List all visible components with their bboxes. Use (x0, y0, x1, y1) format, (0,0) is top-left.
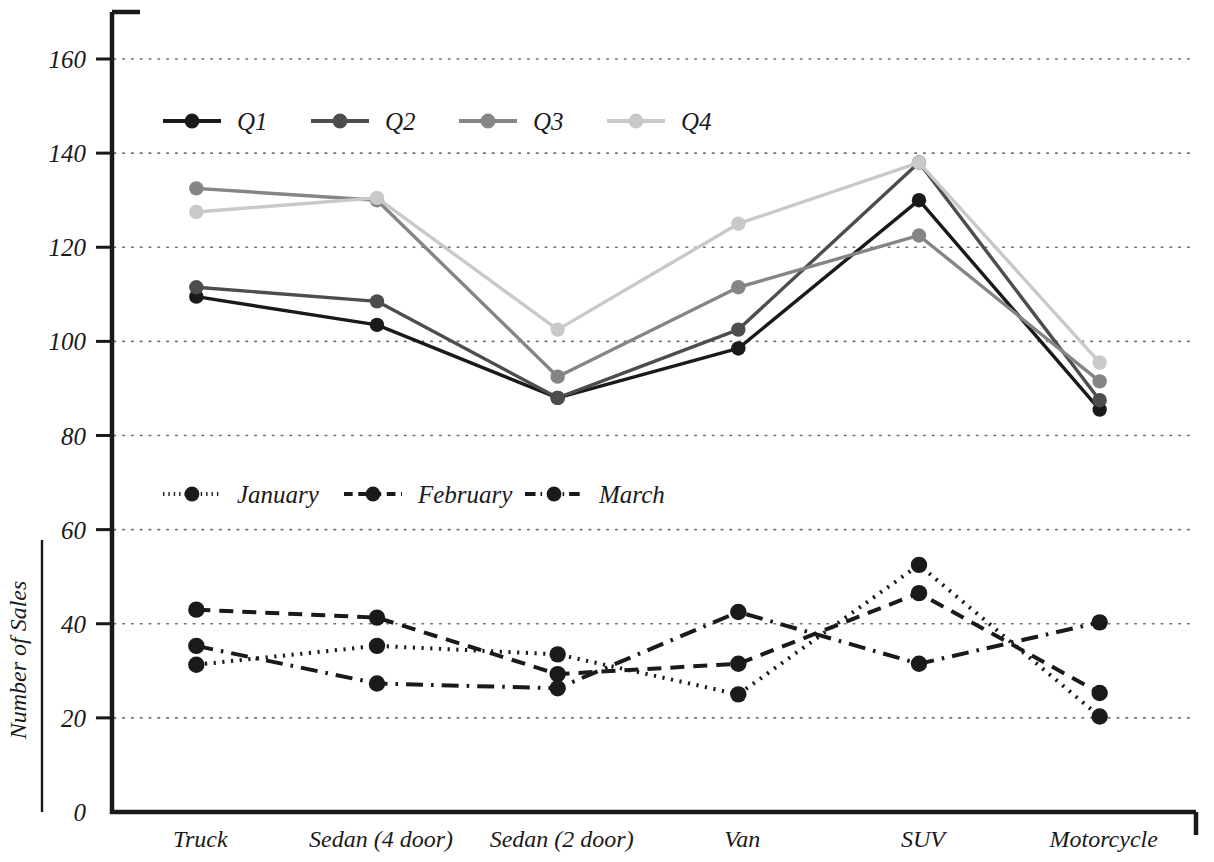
axis-lines (112, 12, 1196, 835)
y-tick-label-160: 160 (49, 46, 87, 73)
x-axis-label-3: Van (724, 826, 760, 852)
data-point-march-0 (188, 638, 204, 654)
data-point-january-4 (911, 557, 927, 573)
data-point-january-0 (188, 656, 204, 672)
y-tick-label-120: 120 (49, 234, 87, 261)
legend-item-february[interactable]: February (344, 481, 513, 508)
legend-swatch-marker-january (185, 487, 200, 502)
legend-item-q1[interactable]: Q1 (163, 108, 268, 135)
x-axis-label-1: Sedan (4 door) (309, 826, 453, 852)
legend-item-january[interactable]: January (163, 481, 320, 508)
data-point-q3-4 (912, 228, 926, 242)
gridlines (114, 59, 1196, 718)
legend-label-q4: Q4 (681, 108, 712, 135)
data-point-february-2 (549, 666, 565, 682)
y-tick-label-40: 40 (61, 611, 87, 638)
legend-swatch-marker-february (366, 487, 381, 502)
y-tick-label-100: 100 (49, 328, 87, 355)
legend-swatch-marker-q1 (185, 114, 200, 129)
data-point-february-5 (1091, 685, 1107, 701)
data-series-layer (188, 155, 1108, 724)
data-point-january-3 (730, 686, 746, 702)
data-point-march-5 (1091, 614, 1107, 630)
data-point-january-2 (549, 646, 565, 662)
series-line-january (196, 565, 1099, 717)
legend-item-q3[interactable]: Q3 (459, 108, 564, 135)
data-point-q1-3 (731, 341, 745, 355)
legend-label-february: February (417, 481, 513, 508)
y-tick-label-20: 20 (61, 705, 87, 732)
legend-quarters[interactable]: Q1Q2Q3Q4 (163, 108, 712, 135)
series-line-q3 (196, 188, 1099, 381)
data-point-q1-4 (912, 193, 926, 207)
data-point-q4-2 (550, 322, 564, 336)
data-point-q3-2 (550, 369, 564, 383)
data-point-q4-4 (912, 155, 926, 169)
data-point-q2-2 (550, 391, 564, 405)
y-tick-label-140: 140 (49, 140, 87, 167)
data-point-q3-3 (731, 280, 745, 294)
legend-swatch-marker-q2 (333, 114, 348, 129)
x-axis-label-2: Sedan (2 door) (490, 826, 634, 852)
data-point-q2-0 (189, 280, 203, 294)
legend-label-january: January (237, 481, 320, 508)
data-point-q4-3 (731, 217, 745, 231)
legend-item-march[interactable]: March (525, 481, 665, 508)
data-point-january-5 (1091, 708, 1107, 724)
data-point-february-4 (911, 585, 927, 601)
series-february (188, 585, 1108, 701)
data-point-march-1 (369, 675, 385, 691)
data-point-february-3 (730, 656, 746, 672)
series-q2 (189, 155, 1107, 407)
line-chart: 020406080100120140160 TruckSedan (4 door… (0, 0, 1214, 862)
series-line-q1 (196, 200, 1099, 409)
data-point-q2-5 (1092, 393, 1106, 407)
legend-item-q2[interactable]: Q2 (311, 108, 416, 135)
y-tick-label-0: 0 (74, 799, 87, 826)
series-q3 (189, 181, 1107, 388)
x-axis-label-0: Truck (173, 826, 228, 852)
data-point-q4-1 (370, 191, 384, 205)
data-point-q2-1 (370, 294, 384, 308)
data-point-january-1 (369, 638, 385, 654)
series-q4 (189, 155, 1107, 369)
legend-label-march: March (598, 481, 665, 508)
x-axis-category-labels: TruckSedan (4 door)Sedan (2 door)VanSUVM… (173, 826, 1158, 852)
chart-canvas: 020406080100120140160 TruckSedan (4 door… (0, 0, 1214, 862)
x-axis-label-4: SUV (901, 826, 947, 852)
plot-frame (112, 12, 1196, 812)
data-point-q3-0 (189, 181, 203, 195)
series-line-march (196, 612, 1099, 688)
data-point-q4-5 (1092, 355, 1106, 369)
data-point-march-3 (730, 604, 746, 620)
legend-label-q1: Q1 (237, 108, 268, 135)
series-january (188, 557, 1108, 725)
legend-item-q4[interactable]: Q4 (607, 108, 712, 135)
data-point-february-1 (369, 609, 385, 625)
legend-label-q3: Q3 (533, 108, 564, 135)
y-axis-title-text: Number of Sales (5, 581, 31, 741)
legend-months[interactable]: JanuaryFebruaryMarch (163, 481, 665, 508)
legend-swatch-marker-q4 (629, 114, 644, 129)
data-point-q3-5 (1092, 374, 1106, 388)
y-axis-title: Number of Sales (5, 540, 42, 812)
legend-label-q2: Q2 (385, 108, 416, 135)
y-axis-ticks: 020406080100120140160 (49, 46, 113, 826)
legend-swatch-marker-march (547, 487, 562, 502)
data-point-q1-1 (370, 318, 384, 332)
data-point-march-4 (911, 656, 927, 672)
legend-swatch-marker-q3 (481, 114, 496, 129)
series-line-february (196, 593, 1099, 693)
y-tick-label-80: 80 (61, 423, 87, 450)
data-point-q4-0 (189, 205, 203, 219)
x-axis-label-5: Motorcycle (1048, 826, 1158, 852)
data-point-february-0 (188, 601, 204, 617)
data-point-q2-3 (731, 322, 745, 336)
y-tick-label-60: 60 (61, 517, 87, 544)
data-point-march-2 (549, 680, 565, 696)
